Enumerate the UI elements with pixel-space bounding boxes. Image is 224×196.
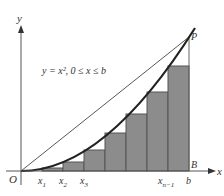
y-axis-label: y bbox=[16, 12, 22, 24]
x-axis-arrow-icon bbox=[208, 168, 216, 174]
rectangle-3 bbox=[84, 150, 105, 171]
origin-label: O bbox=[9, 173, 17, 185]
diagram-canvas: y x O P B y = x², 0 ≤ x ≤ b x1 x2 x3 xn−… bbox=[0, 0, 224, 196]
y-axis-arrow-icon bbox=[18, 25, 24, 33]
rectangle-7 bbox=[168, 66, 189, 171]
rectangle-2 bbox=[63, 162, 84, 171]
point-b-label: B bbox=[191, 159, 197, 170]
point-p-label: P bbox=[190, 31, 197, 42]
rectangle-5 bbox=[126, 114, 147, 171]
equation-label: y = x², 0 ≤ x ≤ b bbox=[41, 65, 106, 76]
tick-x3: x3 bbox=[79, 175, 88, 189]
tick-x1: x1 bbox=[37, 175, 46, 189]
rectangles bbox=[42, 66, 189, 171]
rectangle-6 bbox=[147, 92, 168, 171]
tick-x2: x2 bbox=[58, 175, 67, 189]
rectangle-4 bbox=[105, 133, 126, 171]
x-axis-label: x bbox=[216, 165, 222, 177]
tick-labels: x1 x2 x3 xn−1 b bbox=[37, 175, 191, 189]
tick-b: b bbox=[186, 175, 191, 186]
riemann-sum-diagram: y x O P B y = x², 0 ≤ x ≤ b x1 x2 x3 xn−… bbox=[0, 0, 224, 196]
tick-xn-1: xn−1 bbox=[157, 175, 174, 189]
